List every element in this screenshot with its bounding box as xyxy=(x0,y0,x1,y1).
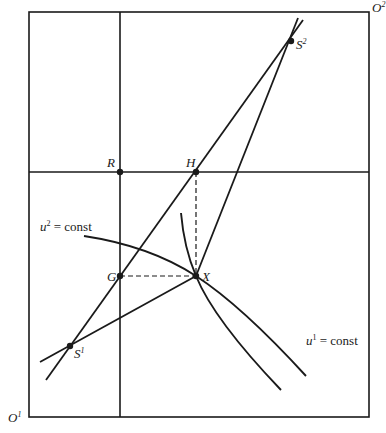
label-point-r: R xyxy=(106,155,115,170)
label-point-s2: S2 xyxy=(296,37,307,52)
label-point-x: X xyxy=(201,269,211,284)
point-g xyxy=(117,273,123,279)
label-origin-1: O1 xyxy=(8,410,21,425)
line-s1-h-s2 xyxy=(46,20,303,380)
label-point-s1: S1 xyxy=(74,346,85,361)
point-s2 xyxy=(288,38,294,44)
point-r xyxy=(117,169,123,175)
point-x xyxy=(193,273,199,279)
point-s1 xyxy=(67,343,73,349)
edgeworth-box-diagram: O2 O1 S2 S1 R H G X u2 = const u1 = cons… xyxy=(0,0,386,433)
label-point-h: H xyxy=(185,155,196,170)
label-curve-u1: u1 = const xyxy=(306,333,358,348)
indifference-curve-u2 xyxy=(84,236,306,376)
label-point-g: G xyxy=(107,269,117,284)
label-origin-2: O2 xyxy=(372,0,385,15)
label-curve-u2: u2 = const xyxy=(40,219,92,234)
line-s1-x xyxy=(40,276,196,362)
